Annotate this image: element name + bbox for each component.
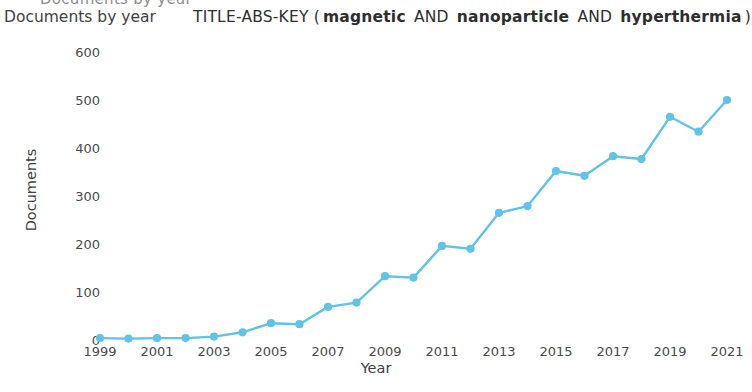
data-point[interactable] — [324, 303, 332, 311]
data-point[interactable] — [723, 96, 731, 104]
data-point[interactable] — [153, 334, 161, 342]
data-point[interactable] — [352, 299, 360, 307]
line-series-svg — [0, 34, 752, 364]
data-point[interactable] — [694, 128, 702, 136]
data-point[interactable] — [295, 320, 303, 328]
data-point[interactable] — [552, 167, 560, 175]
data-point[interactable] — [580, 172, 588, 180]
data-point[interactable] — [666, 113, 674, 121]
data-point[interactable] — [181, 334, 189, 342]
series-markers — [96, 96, 731, 343]
data-point[interactable] — [438, 242, 446, 250]
query-term-2: nanoparticle — [457, 8, 570, 26]
data-point[interactable] — [210, 333, 218, 341]
chart-caption: Documents by year — [4, 8, 156, 26]
data-point[interactable] — [124, 335, 132, 343]
query-operator-2: AND — [577, 8, 612, 26]
data-point[interactable] — [267, 319, 275, 327]
query-prefix: TITLE-ABS-KEY ( — [193, 8, 320, 26]
query-suffix: ) — [745, 8, 751, 26]
chart-header: Documents by year TITLE-ABS-KEY (magneti… — [0, 8, 752, 32]
query-term-3: hyperthermia — [620, 8, 741, 26]
data-point[interactable] — [409, 274, 417, 282]
search-query-string: TITLE-ABS-KEY (magnetic AND nanoparticle… — [193, 8, 751, 26]
data-point[interactable] — [609, 152, 617, 160]
data-point[interactable] — [466, 245, 474, 253]
data-point[interactable] — [96, 334, 104, 342]
data-point[interactable] — [381, 272, 389, 280]
data-point[interactable] — [238, 328, 246, 336]
data-point[interactable] — [523, 202, 531, 210]
query-operator-1: AND — [414, 8, 449, 26]
clipped-header-ghost: Documents by year — [40, 0, 192, 8]
chart-plot-area: Documents 0100200300400500600 1999200120… — [0, 34, 752, 392]
data-point[interactable] — [495, 209, 503, 217]
x-axis-title: Year — [0, 360, 752, 376]
data-point[interactable] — [637, 155, 645, 163]
series-line — [100, 100, 727, 339]
query-term-1: magnetic — [323, 8, 406, 26]
